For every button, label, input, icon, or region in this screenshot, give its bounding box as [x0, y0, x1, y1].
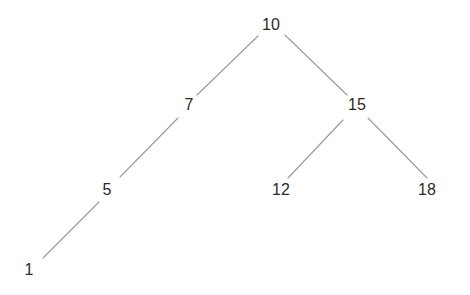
tree-node-18: 18: [418, 182, 436, 198]
tree-edge-10-15: [285, 35, 347, 95]
tree-edges-canvas: [0, 0, 470, 295]
tree-edge-15-18: [368, 118, 427, 178]
tree-edge-15-12: [288, 120, 343, 178]
tree-node-10: 10: [262, 17, 280, 33]
tree-edge-10-7: [197, 36, 258, 95]
tree-node-7: 7: [184, 97, 193, 113]
tree-node-12: 12: [272, 182, 290, 198]
tree-node-1: 1: [24, 262, 33, 278]
tree-node-5: 5: [102, 182, 111, 198]
tree-edge-5-1: [43, 202, 99, 258]
tree-node-15: 15: [348, 97, 366, 113]
edges-group: [43, 35, 427, 258]
tree-edge-7-5: [120, 118, 178, 177]
binary-search-tree-figure: 10715512181: [0, 0, 470, 295]
